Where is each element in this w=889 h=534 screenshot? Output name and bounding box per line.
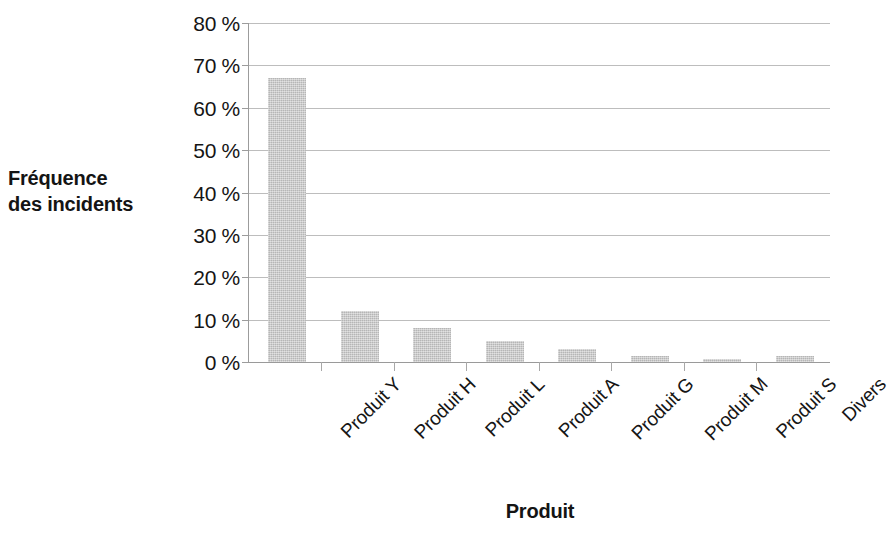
y-tick-label: 0 %	[160, 352, 240, 373]
x-axis-tick-labels: Produit YProduit HProduit LProduit AProd…	[248, 362, 840, 492]
y-axis-title: Fréquence des incidents	[8, 165, 168, 217]
y-tick-mark	[242, 65, 249, 66]
y-tick-mark	[242, 193, 249, 194]
bar	[268, 78, 306, 362]
y-tick-label: 40 %	[160, 183, 240, 204]
y-tick-mark	[242, 320, 249, 321]
bar	[341, 311, 379, 362]
x-tick-label: Produit H	[410, 374, 478, 442]
y-tick-mark	[242, 277, 249, 278]
y-tick-label: 10 %	[160, 310, 240, 331]
x-tick-label: Produit A	[555, 374, 622, 441]
y-tick-mark	[242, 150, 249, 151]
gridline	[248, 193, 830, 194]
y-axis-tick-labels: 80 %70 %60 %50 %40 %30 %20 %10 %0 %	[160, 0, 240, 380]
y-tick-label: 60 %	[160, 98, 240, 119]
gridline	[248, 108, 830, 109]
y-tick-label: 30 %	[160, 225, 240, 246]
x-tick-label: Divers	[838, 374, 889, 425]
y-tick-label: 50 %	[160, 140, 240, 161]
x-tick-label: Produit Y	[337, 374, 404, 441]
x-tick-label: Produit S	[772, 374, 839, 441]
y-tick-label: 70 %	[160, 55, 240, 76]
x-axis-title: Produit	[440, 500, 640, 523]
y-tick-mark	[242, 108, 249, 109]
x-tick-label: Produit G	[628, 374, 697, 443]
x-tick-label: Produit M	[701, 374, 771, 444]
gridline	[248, 150, 830, 151]
bar	[486, 341, 524, 362]
x-tick-label: Produit L	[482, 374, 548, 440]
bar	[558, 349, 596, 362]
gridline	[248, 277, 830, 278]
bar	[413, 328, 451, 362]
gridline	[248, 65, 830, 66]
plot-area	[248, 23, 830, 362]
y-tick-label: 80 %	[160, 13, 240, 34]
gridline	[248, 235, 830, 236]
y-tick-mark	[242, 235, 249, 236]
y-tick-mark	[242, 23, 249, 24]
gridline	[248, 320, 830, 321]
gridline	[248, 23, 830, 24]
y-tick-label: 20 %	[160, 267, 240, 288]
